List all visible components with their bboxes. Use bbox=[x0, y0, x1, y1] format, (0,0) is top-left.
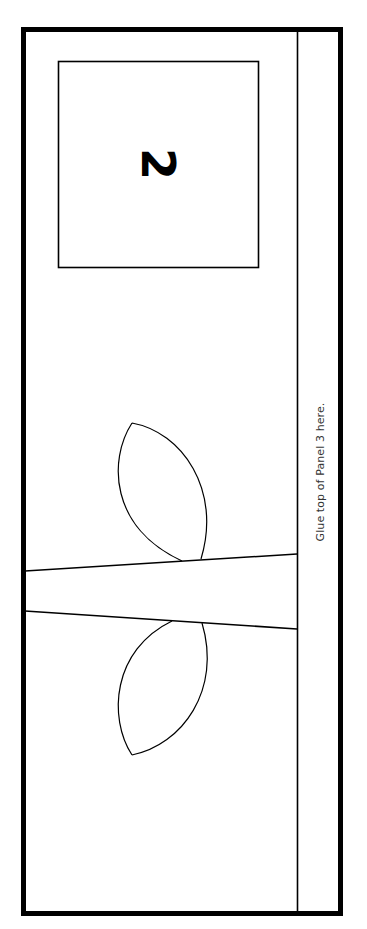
stem-top-edge bbox=[25, 554, 297, 571]
lower-leaf bbox=[118, 621, 207, 755]
outer-border bbox=[24, 30, 341, 914]
upper-leaf bbox=[118, 423, 206, 561]
number-box bbox=[59, 62, 259, 268]
glue-instruction-text: Glue top of Panel 3 here. bbox=[314, 403, 327, 542]
panel-template bbox=[0, 0, 367, 929]
stem-bottom-edge bbox=[25, 611, 297, 629]
